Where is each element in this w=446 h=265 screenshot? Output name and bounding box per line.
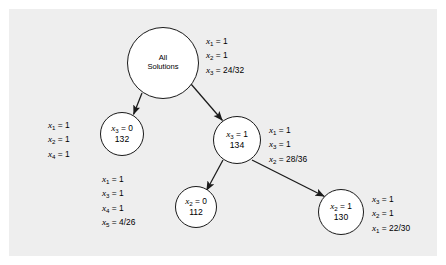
label-132-row-1-subscript: 1 <box>52 124 55 131</box>
label-130-row-3: x1 = 22/30 <box>372 221 410 235</box>
label-132-row-2-subscript: 2 <box>52 138 55 145</box>
label-root-row-3-value: 24/32 <box>223 65 244 75</box>
label-132-row-1: x1 = 1 <box>48 118 70 132</box>
label-130-row-2-subscript: 2 <box>376 212 379 219</box>
node-112-number: 112 <box>189 207 203 217</box>
label-130-row-3-value: 22/30 <box>389 223 410 233</box>
label-134-row-3-value: 28/36 <box>286 154 307 164</box>
node-112[interactable]: x2 = 0 112 <box>175 186 217 228</box>
label-root-row-1: x1 = 1 <box>206 34 244 48</box>
node-130-equation: x2 = 1 <box>329 201 354 212</box>
label-112-row-3-value: 1 <box>119 203 124 213</box>
label-132-row-1-value: 1 <box>65 120 70 130</box>
label-root-row-1-value: 1 <box>223 36 228 46</box>
node-112-subscript: 2 <box>189 200 192 207</box>
label-130-row-3-subscript: 1 <box>376 227 379 234</box>
node-134-subscript: 3 <box>230 133 233 140</box>
label-130-row-1-subscript: 3 <box>376 198 379 205</box>
label-112-row-4: x5 = 4/26 <box>102 215 135 229</box>
node-all-solutions-line2: Solutions <box>147 63 178 72</box>
label-132-row-3: x4 = 1 <box>48 147 70 161</box>
label-134-row-1-value: 1 <box>286 125 291 135</box>
node-134[interactable]: x3 = 1 134 <box>213 116 261 164</box>
label-node-132-solution: x1 = 1 x2 = 1 x4 = 1 <box>48 118 70 161</box>
label-root-row-2-subscript: 2 <box>210 54 213 61</box>
label-112-row-1: x1 = 1 <box>102 172 135 186</box>
label-130-row-2-value: 1 <box>389 208 394 218</box>
node-132-subscript: 3 <box>115 127 118 134</box>
label-134-row-2-subscript: 3 <box>273 143 276 150</box>
node-132-equation: x3 = 0 <box>110 123 135 134</box>
node-134-equation: x3 = 1 <box>225 129 250 140</box>
label-112-row-2-subscript: 3 <box>106 192 109 199</box>
node-134-value: 1 <box>243 129 248 139</box>
diagram-canvas: All Solutions x3 = 0 132 x3 = 1 134 x2 =… <box>0 0 446 265</box>
label-112-row-2: x3 = 1 <box>102 186 135 200</box>
label-132-row-2-value: 1 <box>65 134 70 144</box>
node-112-equation: x2 = 0 <box>184 196 209 207</box>
label-112-row-4-subscript: 5 <box>106 221 109 228</box>
label-134-row-3: x2 = 28/36 <box>269 152 307 166</box>
label-134-row-3-subscript: 2 <box>273 158 276 165</box>
label-node-130-solution: x3 = 1 x2 = 1 x1 = 22/30 <box>372 192 410 235</box>
node-all-solutions[interactable]: All Solutions <box>127 27 199 99</box>
label-132-row-2: x2 = 1 <box>48 132 70 146</box>
label-112-row-2-value: 1 <box>119 188 124 198</box>
label-130-row-2: x2 = 1 <box>372 206 410 220</box>
node-130[interactable]: x2 = 1 130 <box>318 189 364 235</box>
label-132-row-3-subscript: 4 <box>52 153 55 160</box>
node-130-value: 1 <box>347 201 352 211</box>
label-134-row-1: x1 = 1 <box>269 123 307 137</box>
label-node-112-solution: x1 = 1 x3 = 1 x4 = 1 x5 = 4/26 <box>102 172 135 229</box>
label-134-row-2-value: 1 <box>286 139 291 149</box>
node-112-value: 0 <box>202 196 207 206</box>
label-root-row-1-subscript: 1 <box>210 40 213 47</box>
node-134-number: 134 <box>230 140 244 150</box>
label-112-row-1-subscript: 1 <box>106 178 109 185</box>
label-134-row-2: x3 = 1 <box>269 137 307 151</box>
label-112-row-1-value: 1 <box>119 174 124 184</box>
node-132-number: 132 <box>115 134 129 144</box>
node-132[interactable]: x3 = 0 132 <box>100 112 144 156</box>
label-130-row-1-value: 1 <box>389 194 394 204</box>
label-112-row-4-value: 4/26 <box>119 217 135 227</box>
label-root-row-2-value: 1 <box>223 50 228 60</box>
label-132-row-3-value: 1 <box>65 149 70 159</box>
label-node-134-solution: x1 = 1 x3 = 1 x2 = 28/36 <box>269 123 307 166</box>
label-130-row-1: x3 = 1 <box>372 192 410 206</box>
label-112-row-3-subscript: 4 <box>106 207 109 214</box>
node-130-subscript: 2 <box>334 205 337 212</box>
label-root-row-2: x2 = 1 <box>206 48 244 62</box>
label-112-row-3: x4 = 1 <box>102 201 135 215</box>
label-root-row-3: x3 = 24/32 <box>206 63 244 77</box>
label-root-solution: x1 = 1 x2 = 1 x3 = 24/32 <box>206 34 244 77</box>
label-134-row-1-subscript: 1 <box>273 129 276 136</box>
node-130-number: 130 <box>334 212 348 222</box>
label-root-row-3-subscript: 3 <box>210 69 213 76</box>
node-132-value: 0 <box>128 123 133 133</box>
